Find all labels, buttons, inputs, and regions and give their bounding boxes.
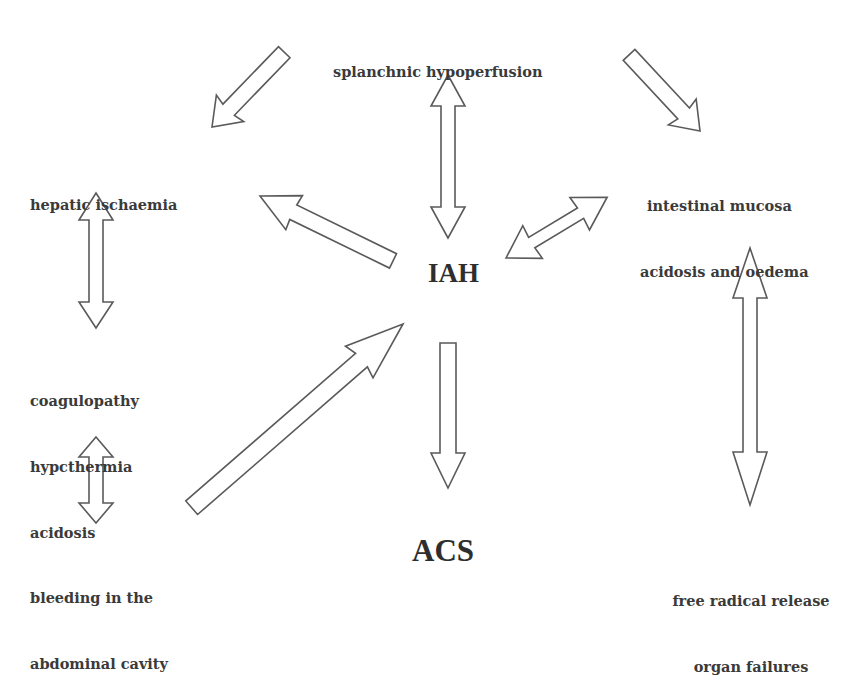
- node-label-line-1: intestinal mucosa: [640, 195, 809, 217]
- arrow-bleeding-to-iah: [178, 308, 417, 523]
- node-label: hepatic ischaemia: [30, 194, 177, 216]
- arrow-splanchnic-to-hepatic: [198, 39, 298, 140]
- arrow-iah-intestinal-double: [496, 181, 617, 274]
- node-label: splanchnic hypoperfusion: [333, 61, 543, 83]
- arrow-iah-to-acs: [431, 343, 465, 488]
- node-label-line-1: free radical release: [665, 590, 837, 612]
- arrow-splanchnic-to-intestinal: [615, 42, 714, 144]
- node-splanchnic-hypoperfusion: splanchnic hypoperfusion: [333, 17, 543, 127]
- node-label-line-2: hypcthermia: [30, 456, 139, 478]
- node-hepatic-ischaemia: hepatic ischaemia: [30, 150, 177, 260]
- node-label-line-1: bleeding in the: [30, 587, 168, 609]
- node-label-line-2: organ failures: [665, 656, 837, 678]
- node-label-line-2: abdominal cavity: [30, 653, 168, 675]
- node-label-line-1: coagulopathy: [30, 390, 139, 412]
- node-free-radical: free radical release organ failures: [665, 546, 837, 679]
- node-label-line-3: acidosis: [30, 522, 139, 544]
- node-iah: IAH: [428, 258, 479, 289]
- node-label-line-2: acidosis and oedema: [640, 261, 809, 283]
- arrow-iah-to-hepatic: [252, 179, 402, 278]
- node-bleeding: bleeding in the abdominal cavity: [30, 543, 168, 679]
- node-intestinal-mucosa: intestinal mucosa acidosis and oedema: [640, 151, 809, 327]
- node-acs: ACS: [412, 533, 474, 569]
